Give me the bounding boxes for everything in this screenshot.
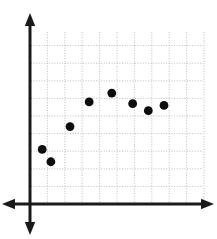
plot-canvas xyxy=(0,0,217,239)
y-axis xyxy=(25,13,35,235)
data-point xyxy=(107,89,116,98)
vertical-gridlines xyxy=(47,32,204,203)
y-axis-arrow-down-icon xyxy=(25,222,35,235)
data-point xyxy=(66,122,75,131)
scatter-plot-figure xyxy=(0,0,217,239)
data-point xyxy=(46,157,55,166)
data-point xyxy=(128,99,137,108)
x-axis xyxy=(2,199,214,209)
y-axis-arrow-up-icon xyxy=(25,13,35,26)
data-point xyxy=(38,145,47,154)
data-point xyxy=(85,98,94,107)
data-point xyxy=(144,106,153,115)
x-axis-arrow-right-icon xyxy=(201,199,214,209)
data-point xyxy=(160,101,169,110)
x-axis-arrow-left-icon xyxy=(2,199,15,209)
data-point-group xyxy=(38,89,169,166)
